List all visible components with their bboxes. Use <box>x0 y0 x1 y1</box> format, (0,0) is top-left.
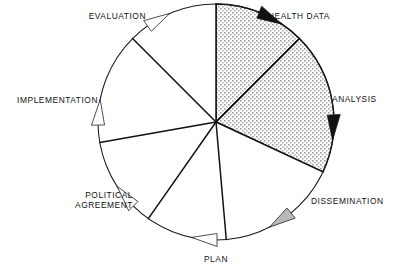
segment-label-implementation: IMPLEMENTATION <box>17 95 98 105</box>
cycle-wheel-figure: HEALTH DATAANALYSISDISSEMINATIONPLANPOLI… <box>0 0 400 270</box>
segment-label-political-agreement: POLITICALAGREEMENT <box>75 190 133 211</box>
segment-label-dissemination: DISSEMINATION <box>311 196 384 206</box>
segment-label-evaluation: EVALUATION <box>89 11 146 21</box>
cycle-wheel-svg: HEALTH DATAANALYSISDISSEMINATIONPLANPOLI… <box>0 0 400 270</box>
segment-label-health-data: HEALTH DATA <box>268 11 330 21</box>
segment-label-plan: PLAN <box>204 254 228 264</box>
segment-label-analysis: ANALYSIS <box>332 94 377 104</box>
